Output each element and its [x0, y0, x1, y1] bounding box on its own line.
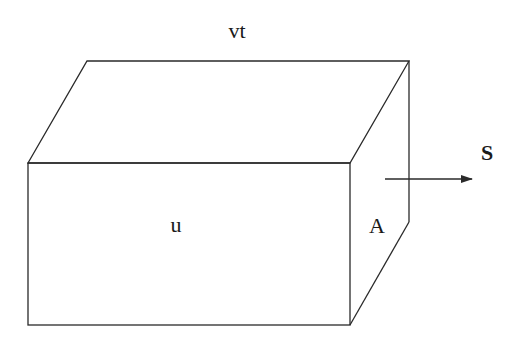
label-arrow: S	[481, 140, 493, 165]
label-top: vt	[228, 18, 245, 43]
label-front: u	[171, 212, 182, 237]
label-side: A	[369, 213, 385, 238]
box-diagram: vt u A S	[0, 0, 515, 346]
front-face	[28, 163, 350, 325]
top-face	[28, 61, 409, 163]
